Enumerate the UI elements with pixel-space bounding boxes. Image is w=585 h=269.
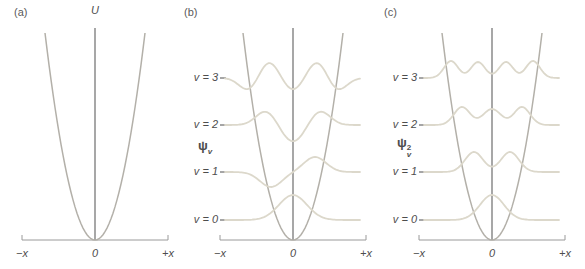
psi-v-squared-label: ψ2v [388,136,420,158]
x-label-b-pos: +x [356,246,376,260]
x-label-c-neg: −x [409,246,429,260]
x-label-c-pos: +x [555,246,575,260]
level-label-b-v1: v = 1 [186,164,218,178]
level-label-c-v1: v = 1 [385,164,417,178]
level-label-b-v3: v = 3 [186,70,218,84]
panel-b-label: (b) [184,5,197,19]
panel-a-label: (a) [14,5,27,19]
level-label-b-v0: v = 0 [186,212,218,226]
level-label-c-v3: v = 3 [385,70,417,84]
psi-v-label: ψv [190,139,220,159]
x-label-a-pos: +x [158,246,178,260]
x-label-a-zero: 0 [85,246,105,260]
u-axis-label: U [86,3,104,17]
panel-c-label: (c) [384,5,397,19]
plot-svg [0,0,585,269]
level-label-c-v2: v = 2 [385,117,417,131]
x-label-b-zero: 0 [283,246,303,260]
x-label-c-zero: 0 [482,246,502,260]
figure-canvas: (a) (b) (c) U v = 3 v = 2 v = 1 v = 0 v … [0,0,585,269]
x-label-a-neg: −x [12,246,32,260]
x-label-b-neg: −x [210,246,230,260]
level-label-c-v0: v = 0 [385,212,417,226]
level-label-b-v2: v = 2 [186,117,218,131]
